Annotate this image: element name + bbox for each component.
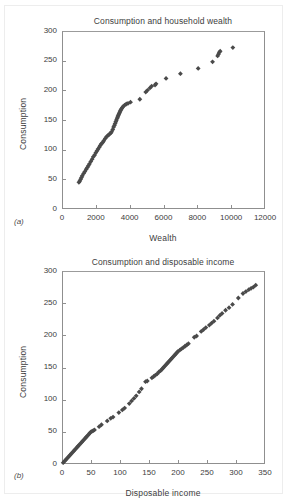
x-axis-label-b: Disposable income (113, 488, 213, 498)
x-tick-mark (236, 460, 237, 464)
y-tick-mark (62, 432, 66, 433)
x-tick-mark (130, 205, 131, 209)
x-axis-label-a: Wealth (113, 233, 213, 243)
y-tick-mark (62, 120, 66, 121)
scatter-plot-a (62, 31, 265, 209)
x-tick-mark (96, 205, 97, 209)
y-tick-label: 50 (28, 174, 57, 183)
y-tick-label: 250 (28, 55, 57, 64)
y-tick-mark (62, 61, 66, 62)
x-tick-label: 350 (243, 468, 287, 477)
y-tick-label: 50 (28, 426, 57, 435)
x-tick-mark (120, 460, 121, 464)
data-point (227, 305, 232, 310)
y-tick-label: 150 (28, 115, 57, 124)
y-tick-mark (62, 400, 66, 401)
y-tick-mark (62, 303, 66, 304)
x-tick-label: 12000 (243, 213, 287, 222)
y-tick-label: 300 (28, 26, 57, 35)
scatter-plot-b (62, 271, 265, 464)
data-point (164, 76, 169, 81)
data-point (137, 97, 142, 102)
y-axis-label-b: Consumption (18, 346, 28, 398)
data-point (178, 71, 183, 76)
x-tick-mark (231, 205, 232, 209)
y-tick-label: 100 (28, 144, 57, 153)
data-point (230, 45, 235, 50)
chart-title-a: Consumption and household wealth (60, 16, 266, 26)
data-point (196, 66, 201, 71)
y-tick-mark (62, 150, 66, 151)
data-point (116, 410, 121, 415)
y-tick-mark (62, 90, 66, 91)
y-tick-label: 150 (28, 362, 57, 371)
x-tick-mark (164, 205, 165, 209)
y-tick-mark (62, 335, 66, 336)
y-tick-label: 300 (28, 266, 57, 275)
chart-panel-b: Consumption and disposable income Consum… (0, 250, 288, 499)
x-tick-mark (207, 460, 208, 464)
y-tick-label: 200 (28, 330, 57, 339)
y-tick-mark (62, 368, 66, 369)
y-tick-mark (62, 179, 66, 180)
y-tick-label: 0 (28, 204, 57, 213)
data-point (230, 302, 235, 307)
x-tick-mark (91, 460, 92, 464)
data-point (210, 59, 215, 64)
y-tick-label: 250 (28, 298, 57, 307)
data-point (223, 308, 228, 313)
panel-label-b: (b) (14, 471, 24, 480)
x-tick-mark (197, 205, 198, 209)
x-tick-mark (149, 460, 150, 464)
x-tick-mark (178, 460, 179, 464)
chart-panel-a: Consumption and household wealth Consump… (0, 0, 288, 250)
y-tick-label: 100 (28, 394, 57, 403)
data-point (105, 418, 110, 423)
panel-label-a: (a) (14, 217, 24, 226)
data-point (236, 296, 241, 301)
y-axis-label-a: Consumption (18, 98, 28, 150)
chart-title-b: Consumption and disposable income (60, 257, 266, 267)
figure-page: Consumption and household wealth Consump… (0, 0, 288, 499)
y-tick-label: 0 (28, 459, 57, 468)
y-tick-label: 200 (28, 85, 57, 94)
